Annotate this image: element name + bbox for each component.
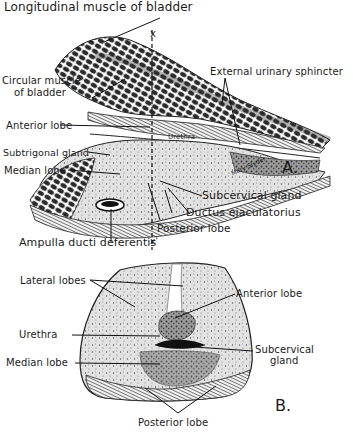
label-subcervical-2: gland [270,355,298,367]
label-subcervical-gland-a: Subcervical gland [202,190,302,202]
panel-label-a: A. [282,160,298,176]
label-anterior-lobe-a: Anterior lobe [6,120,72,132]
label-circular-muscle-1: Circular muscle [2,75,81,87]
label-ductus-ejaculatorius: Ductus ejaculatorius [186,207,301,219]
label-subtrigonal-gland: Subtrigonal gland [3,147,89,159]
panel-label-b: B. [275,398,291,414]
label-ampulla: Ampulla ducti deferentis [19,237,156,249]
label-posterior-lobe-b: Posterior lobe [138,417,208,429]
label-longitudinal-muscle: Longitudinal muscle of bladder [4,1,193,13]
label-median-lobe-b: Median lobe [6,357,68,369]
label-anterior-lobe-b: Anterior lobe [236,288,302,300]
label-lateral-lobes: Lateral lobes [20,275,86,287]
label-circular-muscle-2: of bladder [14,87,66,99]
label-posterior-lobe-a: Posterior lobe [157,222,231,234]
section-mark-top: x [150,28,156,40]
label-urethra-a: Urethra [168,131,195,143]
label-median-lobe-a: Median lobe [4,165,66,177]
label-external-sphincter: External urinary sphincter [210,66,343,78]
figure-b-drawing [80,263,252,401]
label-urethra-b: Urethra [19,329,58,341]
